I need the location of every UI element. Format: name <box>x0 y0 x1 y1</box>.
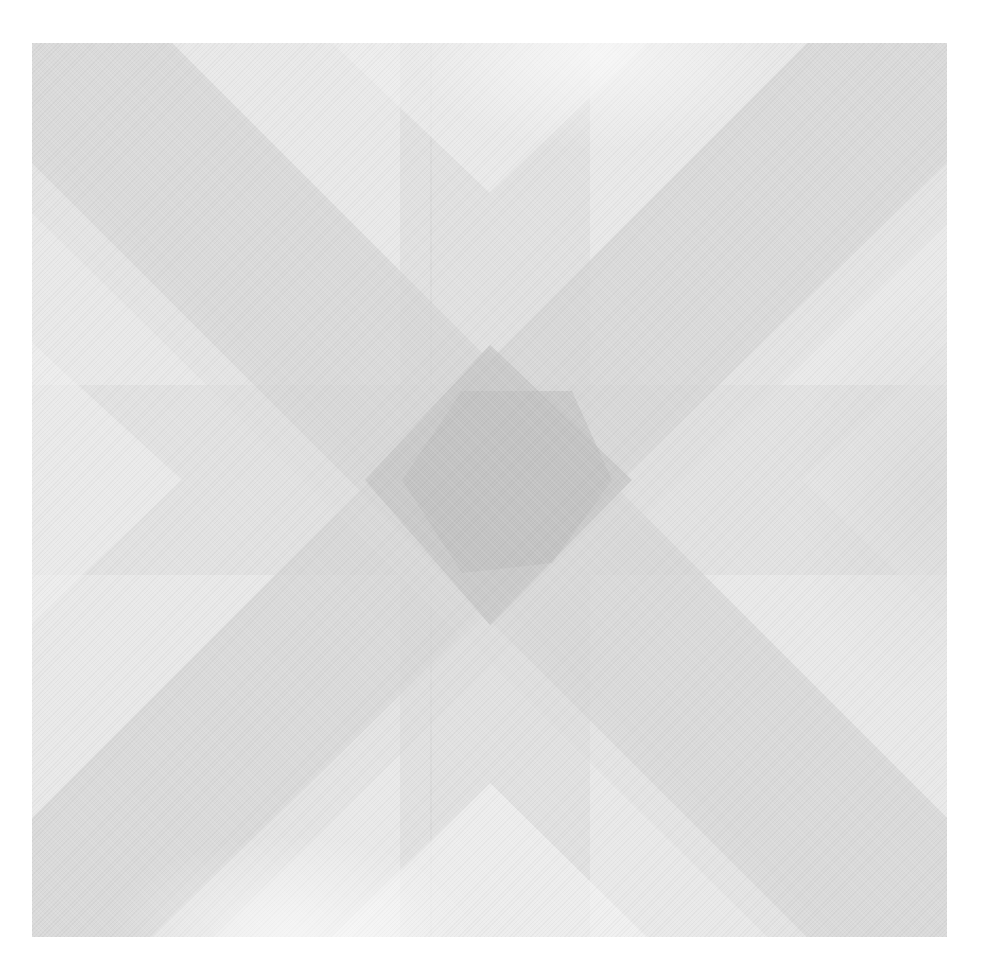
geometric-artwork <box>32 43 947 937</box>
artwork-canvas <box>32 43 947 937</box>
